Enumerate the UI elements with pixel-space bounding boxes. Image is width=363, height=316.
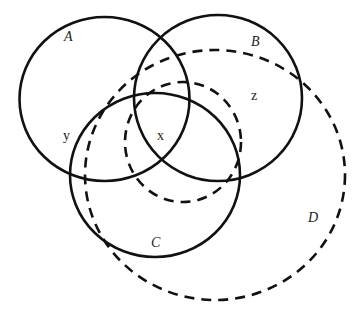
point-y: y — [63, 128, 70, 143]
venn-canvas: A B C D x y z — [0, 0, 363, 316]
set-c-circle — [70, 93, 240, 257]
set-d-dashed-ellipse — [85, 50, 345, 300]
label-a: A — [63, 29, 73, 44]
label-b: B — [251, 34, 260, 49]
venn-diagram: A B C D x y z — [0, 0, 363, 316]
label-c: C — [151, 235, 161, 250]
point-z: z — [251, 88, 257, 103]
point-x: x — [157, 128, 164, 143]
set-a-circle — [20, 17, 190, 181]
set-b-circle — [134, 15, 302, 181]
inner-dashed-circle — [125, 82, 241, 202]
label-d: D — [307, 210, 318, 225]
